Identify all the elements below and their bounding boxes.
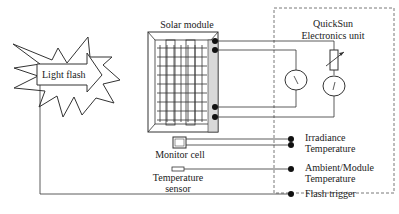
irradiance-label: Irradiance [305, 132, 346, 143]
electronics-terminals [288, 136, 294, 197]
solar-module-label: Solar module [160, 19, 214, 30]
module-wires [218, 41, 334, 117]
solar-module [148, 32, 218, 132]
electronics-unit-label-2: Electronics unit [301, 30, 364, 41]
monitor-cell-icon [173, 137, 186, 148]
temperature-sensor-label-2: sensor [165, 183, 191, 194]
ambient-module-label-1: Ambient/Module [305, 162, 374, 173]
ambient-module-label-2: Temperature [305, 173, 356, 184]
flash-trigger-label: Flash trigger [305, 188, 356, 199]
temperature-label: Temperature [305, 143, 356, 154]
temperature-sensor-icon [172, 167, 184, 171]
electronics-unit-label-1: QuickSun [313, 18, 353, 29]
monitor-cell-label: Monitor cell [155, 149, 205, 160]
light-flash-label: Light flash [42, 69, 86, 80]
temperature-sensor-label-1: Temperature [153, 172, 204, 183]
measurement-setup-diagram: QuickSun Electronics unit Light flash So… [0, 0, 399, 214]
